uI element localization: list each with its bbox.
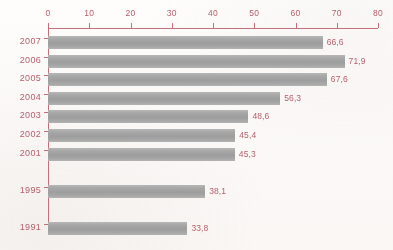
x-tick-60 <box>296 23 297 28</box>
x-axis-line <box>48 28 378 29</box>
bar-row: 200567,6 <box>48 73 378 86</box>
bar-1995 <box>48 185 205 198</box>
x-tick-70 <box>337 23 338 28</box>
bar-value-2005: 67,6 <box>331 74 348 84</box>
category-label-2007: 2007 <box>20 36 41 46</box>
category-label-1995: 1995 <box>20 185 41 195</box>
x-tick-label-20: 20 <box>126 8 136 18</box>
category-label-2003: 2003 <box>20 110 41 120</box>
bar-row: 199133,8 <box>48 222 378 235</box>
x-tick-label-60: 60 <box>291 8 301 18</box>
bar-2002 <box>48 129 235 142</box>
bar-value-1995: 38,1 <box>209 186 226 196</box>
category-label-2005: 2005 <box>20 73 41 83</box>
x-tick-40 <box>213 23 214 28</box>
bar-chart: 01020304050607080 200766,6200671,9200567… <box>0 0 393 250</box>
x-tick-label-30: 30 <box>167 8 177 18</box>
bar-2003 <box>48 110 248 123</box>
x-tick-20 <box>131 23 132 28</box>
plot-area: 01020304050607080 200766,6200671,9200567… <box>48 28 378 232</box>
bar-1991 <box>48 222 187 235</box>
bar-2005 <box>48 73 327 86</box>
bar-2001 <box>48 148 235 161</box>
category-label-2004: 2004 <box>20 92 41 102</box>
category-label-2001: 2001 <box>20 148 41 158</box>
bar-value-2001: 45,3 <box>239 149 256 159</box>
category-label-2006: 2006 <box>20 55 41 65</box>
bar-value-2007: 66,6 <box>327 37 344 47</box>
category-label-1991: 1991 <box>20 222 41 232</box>
bar-2004 <box>48 92 280 105</box>
bar-row: 200671,9 <box>48 55 378 68</box>
x-tick-label-70: 70 <box>332 8 342 18</box>
x-tick-label-40: 40 <box>208 8 218 18</box>
bar-2007 <box>48 36 323 49</box>
x-tick-label-80: 80 <box>373 8 383 18</box>
bar-row: 199538,1 <box>48 185 378 198</box>
x-tick-10 <box>89 23 90 28</box>
bar-value-1991: 33,8 <box>191 223 208 233</box>
x-tick-0 <box>48 23 49 28</box>
bar-value-2006: 71,9 <box>349 56 366 66</box>
x-tick-50 <box>254 23 255 28</box>
x-tick-label-10: 10 <box>84 8 94 18</box>
bar-row: 200145,3 <box>48 148 378 161</box>
bar-row: 200456,3 <box>48 92 378 105</box>
bar-value-2002: 45,4 <box>239 130 256 140</box>
bar-row: 200245,4 <box>48 129 378 142</box>
bar-value-2003: 48,6 <box>252 111 269 121</box>
category-label-2002: 2002 <box>20 129 41 139</box>
x-tick-label-0: 0 <box>46 8 51 18</box>
bar-row: 200766,6 <box>48 36 378 49</box>
bar-row: 200348,6 <box>48 110 378 123</box>
x-tick-label-50: 50 <box>249 8 259 18</box>
bar-2006 <box>48 55 345 68</box>
bar-value-2004: 56,3 <box>284 93 301 103</box>
x-tick-80 <box>378 23 379 28</box>
x-tick-30 <box>172 23 173 28</box>
